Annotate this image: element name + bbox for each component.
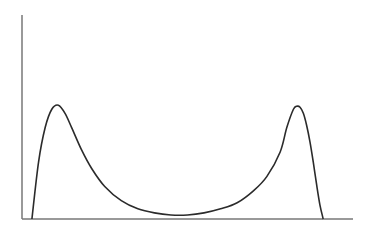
density-curve-line (32, 105, 323, 219)
bimodal-chart (0, 0, 373, 231)
plot-area (22, 15, 353, 219)
